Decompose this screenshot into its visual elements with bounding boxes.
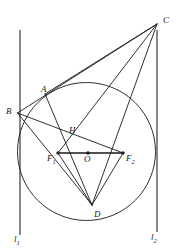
point-label-F1: F1 [47, 154, 56, 165]
point-dot-F2 [121, 151, 124, 154]
point-label-H: H [69, 126, 76, 135]
point-dot-F1 [56, 151, 59, 154]
segment-A-C [45, 24, 157, 94]
point-label-C: C [163, 16, 169, 25]
diagram-canvas: A B C D H O F1 F2 l1 l2 [0, 0, 178, 249]
point-label-F2: F2 [126, 154, 135, 165]
point-label-D: D [94, 210, 101, 219]
segment-A-D [45, 94, 92, 205]
line-label-l1: l1 [14, 235, 20, 246]
geometry-figure [0, 0, 178, 249]
segment-C-D [92, 24, 157, 205]
line-label-l2: l2 [151, 233, 157, 244]
point-label-A: A [41, 85, 47, 94]
point-label-O: O [84, 155, 91, 164]
main-circle [18, 83, 156, 221]
point-label-B: B [6, 107, 12, 116]
